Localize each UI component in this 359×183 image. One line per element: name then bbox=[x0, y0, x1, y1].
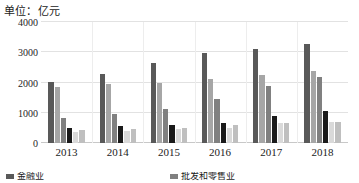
y-tick-label: 0 bbox=[0, 138, 38, 149]
bar-group bbox=[48, 22, 84, 143]
bar bbox=[272, 116, 277, 143]
legend-label: 金融业 bbox=[17, 172, 44, 181]
bar bbox=[278, 123, 283, 143]
bar bbox=[266, 86, 271, 143]
legend-swatch-icon bbox=[170, 174, 178, 179]
category-separator bbox=[143, 22, 144, 143]
bar bbox=[73, 132, 78, 143]
bar bbox=[61, 118, 66, 143]
bar bbox=[329, 122, 334, 143]
x-tick-label: 2014 bbox=[107, 146, 129, 158]
bar-chart: 单位：亿元 01000200030004000 2013201420152016… bbox=[0, 0, 359, 183]
category-separator bbox=[92, 22, 93, 143]
bar bbox=[317, 77, 322, 143]
bar bbox=[106, 84, 111, 143]
x-tick-label: 2015 bbox=[158, 146, 180, 158]
bar bbox=[335, 122, 340, 143]
x-tick-label: 2016 bbox=[209, 146, 231, 158]
y-tick-label: 4000 bbox=[0, 17, 38, 28]
bar bbox=[131, 129, 136, 143]
bar bbox=[208, 79, 213, 143]
bar bbox=[182, 128, 187, 143]
bar bbox=[221, 123, 226, 143]
y-tick-label: 1000 bbox=[0, 107, 38, 118]
bar bbox=[151, 63, 156, 143]
bar bbox=[157, 83, 162, 143]
bar bbox=[112, 114, 117, 143]
bar bbox=[214, 99, 219, 143]
x-tick-label: 2017 bbox=[260, 146, 282, 158]
bar bbox=[311, 71, 316, 143]
bar bbox=[48, 82, 53, 143]
x-tick-label: 2018 bbox=[311, 146, 333, 158]
legend-item[interactable]: 批发和零售业 bbox=[170, 172, 235, 181]
bar bbox=[233, 125, 238, 143]
chart-legend: 金融业批发和零售业 bbox=[0, 172, 359, 183]
bar bbox=[124, 131, 129, 143]
bar bbox=[169, 125, 174, 143]
bar bbox=[79, 130, 84, 143]
bar-group bbox=[253, 22, 289, 143]
plot-area bbox=[41, 22, 348, 143]
bar bbox=[176, 129, 181, 143]
y-tick-label: 2000 bbox=[0, 77, 38, 88]
legend-item[interactable]: 金融业 bbox=[6, 172, 44, 181]
bar bbox=[100, 74, 105, 143]
bar bbox=[67, 128, 72, 143]
x-tick-label: 2013 bbox=[56, 146, 78, 158]
bar bbox=[259, 75, 264, 143]
x-axis-labels: 201320142015201620172018 bbox=[41, 146, 348, 164]
bar bbox=[284, 123, 289, 143]
legend-label: 批发和零售业 bbox=[181, 172, 235, 181]
bar bbox=[323, 111, 328, 143]
bar bbox=[227, 128, 232, 143]
bar-group bbox=[202, 22, 238, 143]
bar bbox=[253, 49, 258, 143]
y-tick-label: 3000 bbox=[0, 47, 38, 58]
bar-group bbox=[151, 22, 187, 143]
category-separator bbox=[297, 22, 298, 143]
bar bbox=[163, 109, 168, 143]
bar-group bbox=[100, 22, 136, 143]
legend-swatch-icon bbox=[6, 174, 14, 179]
bar bbox=[55, 87, 60, 143]
bar bbox=[304, 44, 309, 143]
bar-group bbox=[304, 22, 340, 143]
category-separator bbox=[195, 22, 196, 143]
category-separator bbox=[246, 22, 247, 143]
y-axis-labels: 01000200030004000 bbox=[0, 22, 38, 143]
bar bbox=[202, 53, 207, 143]
bar bbox=[118, 126, 123, 143]
